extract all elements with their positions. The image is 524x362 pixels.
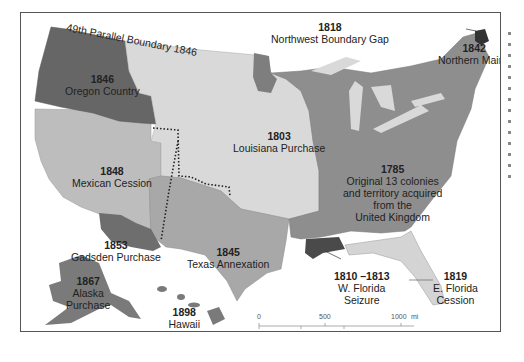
label-alaska: 1867AlaskaPurchase	[66, 275, 110, 311]
label-west-florida: 1810 –1813W. FloridaSeizure	[334, 270, 389, 306]
label-nw-gap: 1818Northwest Boundary Gap	[271, 21, 389, 45]
map-frame: 49th Parallel Boundary 1846 1846Oregon C…	[20, 12, 501, 332]
label-hawaii: 1898HawaiiAnnexation	[158, 306, 211, 332]
label-gadsden: 1853Gadsden Purchase	[71, 239, 161, 263]
label-east-florida: 1819E. FloridaCession	[433, 270, 478, 306]
label-original-colonies: 1785Original 13 coloniesand territory ac…	[343, 163, 442, 223]
scale-bar	[259, 323, 414, 329]
cropped-side-text	[508, 32, 520, 186]
label-texas: 1845Texas Annexation	[187, 246, 269, 270]
region-west-florida	[305, 237, 345, 259]
label-mexican-cession: 1848Mexican Cession	[72, 165, 152, 189]
label-oregon: 1846Oregon Country	[65, 73, 140, 97]
label-louisiana: 1803Louisiana Purchase	[233, 130, 325, 154]
label-northern-maine: 1842Northern Maine	[438, 42, 501, 66]
